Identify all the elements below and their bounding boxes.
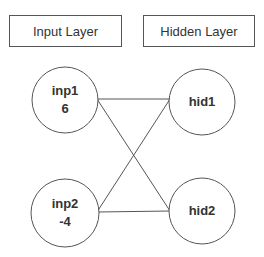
node-inp1-value: 6	[32, 100, 98, 118]
node-hid1-name: hid1	[169, 93, 235, 111]
edge-inp2-hid2	[97, 211, 170, 212]
node-inp1-text: inp1 6	[32, 82, 98, 118]
node-inp2-value: -4	[32, 213, 98, 231]
node-inp1-name: inp1	[32, 82, 98, 100]
node-inp2-text: inp2 -4	[32, 195, 98, 231]
node-hid2-name: hid2	[169, 202, 235, 220]
node-hid1-text: hid1	[169, 93, 235, 111]
node-hid2-text: hid2	[169, 202, 235, 220]
node-inp2-name: inp2	[32, 195, 98, 213]
